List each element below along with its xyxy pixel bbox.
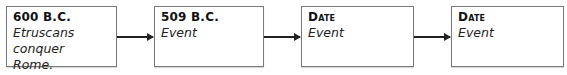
event-text: Event [458,25,563,41]
arrow-2-3 [264,36,300,38]
event-date: Date [458,10,563,25]
event-date: Date [308,10,413,25]
timeline-box-1: 600 B.C. Etruscans conquer Rome. [6,6,117,67]
event-text: Event [161,25,263,41]
timeline-box-2: 509 B.C. Event [154,6,264,67]
event-date: 509 B.C. [161,10,263,25]
arrow-1-2 [117,36,153,38]
timeline-box-3: Date Event [301,6,414,67]
event-text: Event [308,25,413,41]
event-date: 600 B.C. [13,10,116,25]
event-text: Etruscans conquer Rome. [13,25,108,73]
timeline-box-4: Date Event [451,6,564,67]
arrow-3-4 [414,36,450,38]
